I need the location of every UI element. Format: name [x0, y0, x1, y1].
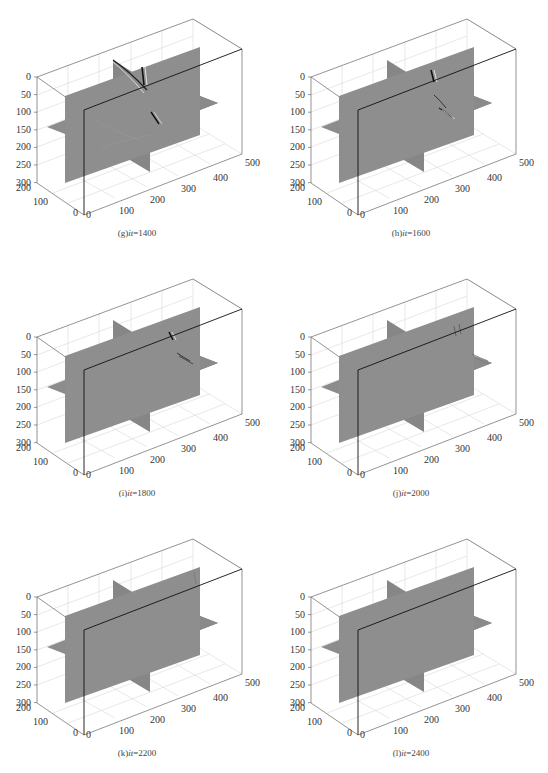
y-axis-ticks: 0100200 — [290, 182, 352, 218]
slice-plot-panel-j: 050100150200250300 0100200 0100200300400… — [274, 260, 548, 518]
y-axis-ticks: 0100200 — [16, 182, 78, 218]
tick-label: 300 — [455, 703, 470, 714]
xz-slice — [339, 567, 474, 703]
x-axis-ticks: 0100200300400500 — [360, 417, 534, 480]
tick-label: 100 — [307, 456, 322, 467]
tick-label: 100 — [290, 626, 305, 637]
slice-plot-panel-g: 050100150200250300 0100200 0100200300400… — [0, 0, 274, 258]
caption-value: 2200 — [138, 748, 156, 758]
caption-value: 1800 — [137, 488, 155, 498]
tick-label: 0 — [347, 727, 352, 738]
tick-label: 100 — [16, 106, 31, 117]
tick-label: 0 — [86, 209, 91, 220]
tick-label: 0 — [347, 467, 352, 478]
tick-label: 250 — [16, 159, 31, 170]
tick-label: 500 — [245, 417, 260, 428]
tick-label: 0 — [360, 729, 365, 740]
xz-slice — [339, 47, 474, 183]
tick-label: 500 — [519, 157, 534, 168]
tick-label: 300 — [181, 443, 196, 454]
slice-plot: 050100150200250300 0100200 0100200300400… — [274, 260, 548, 518]
tick-label: 100 — [393, 465, 408, 476]
slice-plot: 050100150200250300 0100200 0100200300400… — [0, 0, 274, 258]
tick-label: 200 — [150, 454, 165, 465]
tick-label: 0 — [73, 727, 78, 738]
caption-label: (k) — [118, 748, 129, 758]
panel-caption: (h)it=1600 — [274, 228, 548, 238]
z-axis-ticks: 050100150200250300 — [16, 331, 37, 448]
tick-label: 200 — [16, 442, 31, 453]
tick-label: 200 — [16, 661, 31, 672]
tick-label: 400 — [487, 432, 502, 443]
caption-value: 2000 — [411, 488, 429, 498]
tick-label: 200 — [424, 714, 439, 725]
tick-label: 0 — [26, 331, 31, 342]
panel-caption: (j)it=2000 — [274, 488, 548, 498]
tick-label: 400 — [213, 172, 228, 183]
tick-label: 100 — [393, 725, 408, 736]
slice-plot-panel-h: 050100150200250300 0100200 0100200300400… — [274, 0, 548, 258]
horizontal-slice-wing — [200, 96, 218, 110]
horizontal-slice-wing — [474, 96, 492, 110]
tick-label: 50 — [295, 349, 305, 360]
caption-label: (g) — [118, 228, 129, 238]
caption-value: 1400 — [138, 228, 156, 238]
tick-label: 100 — [119, 465, 134, 476]
caption-value: 2400 — [411, 748, 429, 758]
y-axis-ticks: 0100200 — [290, 702, 352, 738]
x-axis-ticks: 0100200300400500 — [360, 677, 534, 740]
slice-plot: 050100150200250300 0100200 0100200300400… — [274, 0, 548, 258]
tick-label: 50 — [21, 89, 31, 100]
panel-caption: (g)it=1400 — [0, 228, 274, 238]
caption-label: (h) — [392, 228, 403, 238]
tick-label: 200 — [16, 182, 31, 193]
y-axis-ticks: 0100200 — [290, 442, 352, 478]
slice-plot-panel-l: 050100150200250300 0100200 0100200300400… — [274, 520, 548, 773]
tick-label: 150 — [290, 124, 305, 135]
tick-label: 200 — [290, 442, 305, 453]
horizontal-slice-wing — [474, 356, 492, 370]
tick-label: 50 — [295, 89, 305, 100]
caption-label: (j) — [393, 488, 402, 498]
caption-label: (i) — [119, 488, 128, 498]
tick-label: 400 — [213, 432, 228, 443]
tick-label: 300 — [181, 183, 196, 194]
tick-label: 400 — [487, 692, 502, 703]
z-axis-ticks: 050100150200250300 — [290, 71, 311, 188]
tick-label: 100 — [307, 716, 322, 727]
tick-label: 100 — [119, 205, 134, 216]
tick-label: 200 — [16, 702, 31, 713]
x-axis-ticks: 0100200300400500 — [86, 417, 260, 480]
slice-plot: 050100150200250300 0100200 0100200300400… — [0, 520, 274, 773]
tick-label: 100 — [119, 725, 134, 736]
tick-label: 500 — [245, 157, 260, 168]
tick-label: 0 — [86, 469, 91, 480]
tick-label: 200 — [150, 194, 165, 205]
tick-label: 150 — [290, 384, 305, 395]
panel-caption: (k)it=2200 — [0, 748, 274, 758]
tick-label: 50 — [21, 609, 31, 620]
x-axis-ticks: 0100200300400500 — [86, 677, 260, 740]
slice-plot-panel-k: 050100150200250300 0100200 0100200300400… — [0, 520, 274, 773]
tick-label: 0 — [300, 71, 305, 82]
horizontal-slice-wing — [200, 356, 218, 370]
tick-label: 200 — [290, 661, 305, 672]
tick-label: 200 — [424, 454, 439, 465]
tick-label: 0 — [360, 469, 365, 480]
tick-label: 200 — [150, 714, 165, 725]
y-axis-ticks: 0100200 — [16, 442, 78, 478]
xz-slice — [65, 567, 200, 703]
tick-label: 200 — [290, 141, 305, 152]
tick-label: 100 — [16, 366, 31, 377]
slice-plot: 050100150200250300 0100200 0100200300400… — [0, 260, 274, 518]
tick-label: 100 — [307, 196, 322, 207]
tick-label: 400 — [213, 692, 228, 703]
tick-label: 250 — [290, 679, 305, 690]
caption-value: 1600 — [412, 228, 430, 238]
tick-label: 100 — [290, 106, 305, 117]
tick-label: 0 — [347, 207, 352, 218]
tick-label: 500 — [519, 417, 534, 428]
tick-label: 200 — [16, 401, 31, 412]
tick-label: 150 — [16, 124, 31, 135]
tick-label: 200 — [290, 401, 305, 412]
